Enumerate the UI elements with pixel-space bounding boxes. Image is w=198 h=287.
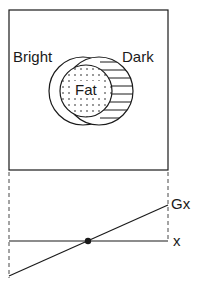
dark-label: Dark [122, 48, 154, 65]
intersection-dot [85, 238, 91, 244]
bright-label: Bright [13, 48, 53, 65]
gx-label: Gx [171, 195, 191, 212]
fat-label: Fat [75, 81, 98, 98]
x-axis-label: x [173, 232, 181, 249]
diagram-canvas: Bright Dark Fat Gx x [0, 0, 198, 287]
